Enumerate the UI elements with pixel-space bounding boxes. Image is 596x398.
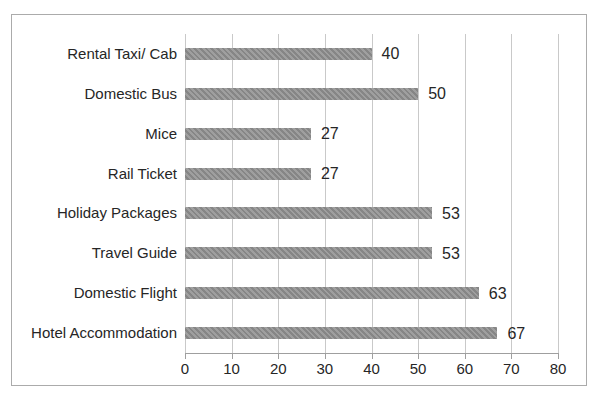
x-axis-tick-label: 20 <box>270 361 287 376</box>
tick-mark-60 <box>465 354 466 359</box>
tick-mark-10 <box>232 354 233 359</box>
x-axis-tick-label: 50 <box>410 361 427 376</box>
bar-row: 63 <box>185 273 558 313</box>
bar-value-label: 53 <box>442 206 460 222</box>
bar-row: 50 <box>185 74 558 114</box>
bar-chart: Rental Taxi/ CabDomestic BusMiceRail Tic… <box>0 0 596 398</box>
bar-row: 53 <box>185 194 558 234</box>
bar-row: 27 <box>185 154 558 194</box>
chart-frame: Rental Taxi/ CabDomestic BusMiceRail Tic… <box>11 14 587 386</box>
x-axis-tick-label: 40 <box>363 361 380 376</box>
tick-mark-80 <box>558 354 559 359</box>
bar-rail-ticket <box>185 168 311 180</box>
bar-value-label: 53 <box>442 246 460 262</box>
bar-domestic-flight <box>185 287 479 299</box>
bar-value-label: 27 <box>321 126 339 142</box>
x-axis-tick-label: 60 <box>456 361 473 376</box>
tick-mark-70 <box>511 354 512 359</box>
bar-holiday-packages <box>185 207 432 219</box>
category-axis: Rental Taxi/ CabDomestic BusMiceRail Tic… <box>18 34 177 353</box>
gridline-80 <box>558 34 559 353</box>
tick-mark-0 <box>185 354 186 359</box>
x-axis-tick-label: 30 <box>317 361 334 376</box>
bar-row: 67 <box>185 313 558 353</box>
category-label: Domestic Flight <box>18 284 177 301</box>
bar-row: 53 <box>185 233 558 273</box>
bar-travel-guide <box>185 247 432 259</box>
bar-hotel-accommodation <box>185 327 497 339</box>
bar-value-label: 63 <box>489 286 507 302</box>
x-axis-tick-label: 70 <box>503 361 520 376</box>
bar-rental-taxi-cab <box>185 48 372 60</box>
tick-mark-50 <box>418 354 419 359</box>
x-axis-tick-label: 80 <box>550 361 567 376</box>
bar-mice <box>185 128 311 140</box>
x-axis-tick-label: 10 <box>223 361 240 376</box>
tick-mark-40 <box>372 354 373 359</box>
bar-value-label: 40 <box>382 46 400 62</box>
plot-area: 4050272753536367 <box>185 34 558 353</box>
bar-value-label: 67 <box>507 326 525 342</box>
bar-value-label: 50 <box>428 86 446 102</box>
category-label: Mice <box>18 125 177 142</box>
x-axis-tick-label: 0 <box>181 361 189 376</box>
bar-row: 27 <box>185 114 558 154</box>
tick-mark-20 <box>278 354 279 359</box>
category-label: Travel Guide <box>18 244 177 261</box>
category-label: Rail Ticket <box>18 165 177 182</box>
bar-domestic-bus <box>185 88 418 100</box>
bar-value-label: 27 <box>321 166 339 182</box>
category-label: Holiday Packages <box>18 204 177 221</box>
x-axis-labels: 01020304050607080 <box>185 361 559 381</box>
bar-row: 40 <box>185 34 558 74</box>
tick-mark-30 <box>325 354 326 359</box>
category-label: Rental Taxi/ Cab <box>18 45 177 62</box>
category-label: Hotel Accommodation <box>18 324 177 341</box>
category-label: Domestic Bus <box>18 85 177 102</box>
